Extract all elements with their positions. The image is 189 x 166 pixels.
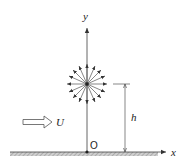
flow-label: U: [56, 116, 65, 128]
origin-label: O: [90, 140, 98, 151]
x-axis-label: x: [170, 146, 176, 158]
diagram-canvas: y x O h U: [0, 0, 189, 166]
height-dimension: [113, 84, 130, 152]
origin-point: [85, 150, 88, 153]
height-label: h: [131, 111, 137, 123]
flow-arrow-icon: [23, 116, 52, 128]
source-point: [85, 82, 89, 86]
y-axis-label: y: [82, 10, 88, 22]
